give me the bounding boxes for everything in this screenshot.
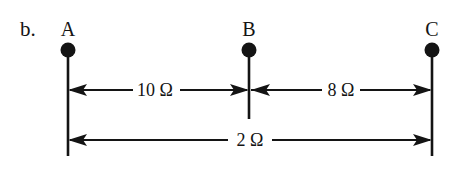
node-c-dot <box>425 43 440 58</box>
dimension-b-to-c: 8 Ω <box>251 80 432 100</box>
node-a: A <box>61 18 76 156</box>
node-b-label: B <box>242 18 255 40</box>
resistance-dimension-figure: A B C 10 Ω 8 Ω <box>0 0 464 190</box>
diagram-canvas: A B C 10 Ω 8 Ω <box>0 0 464 190</box>
dimension-a-to-b-label: 10 Ω <box>137 80 173 100</box>
dimension-a-to-b: 10 Ω <box>68 80 249 100</box>
node-a-label: A <box>61 18 76 40</box>
node-c: C <box>425 18 440 156</box>
node-a-dot <box>61 43 76 58</box>
node-c-label: C <box>425 18 438 40</box>
dimension-a-to-c-label: 2 Ω <box>237 130 264 150</box>
node-b-dot <box>242 43 257 58</box>
dimension-a-to-c: 2 Ω <box>68 130 432 150</box>
node-b: B <box>242 18 257 119</box>
item-label: b. <box>20 17 36 41</box>
dimension-b-to-c-label: 8 Ω <box>328 80 355 100</box>
